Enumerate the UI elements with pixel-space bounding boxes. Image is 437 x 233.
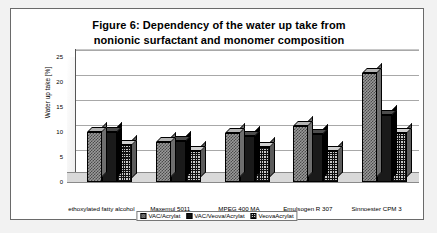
y-axis-tick-labels: 0510152025 [47,49,63,201]
figure-root: Figure 6: Dependency of the water up tak… [0,0,437,233]
chart-legend: VAC/AcrylatVAC/Veova/AcrylatVeovaAcrylat [136,211,297,221]
bar-side-face [308,116,313,177]
bar-group [225,56,270,182]
y-axis-tick-label: 15 [47,104,63,110]
bar-side-face [377,63,382,177]
bar [293,126,308,182]
legend-label: VeovaAcrylat [259,213,294,219]
legend-swatch [140,213,146,219]
y-axis-tick-label: 0 [47,179,63,185]
chart-title-line-1: Figure 6: Dependency of the water up tak… [92,19,345,31]
legend-swatch [251,213,257,219]
bar-front-face [156,142,171,182]
legend-item: VAC/Acrylat [140,213,180,219]
y-axis-tick-label: 25 [47,54,63,60]
chart-title: Figure 6: Dependency of the water up tak… [41,18,397,48]
bar [156,142,171,182]
gridline [76,50,419,51]
y-axis-tick-label: 5 [47,154,63,160]
bar-group [293,56,338,182]
plot-area [67,49,419,201]
legend-label: VAC/Acrylat [148,213,180,219]
plot-floor-front-edge [67,182,419,183]
legend-swatch [186,213,192,219]
bar-group [362,56,407,182]
bar-group [87,56,132,182]
bar [225,133,240,182]
y-axis-tick-label: 20 [47,79,63,85]
bar-front-face [293,126,308,182]
plot-wrap: Water up take [%] 0510152025 [31,49,425,201]
bar [362,73,377,182]
bar-front-face [225,133,240,182]
legend-label: VAC/Veova/Acrylat [194,213,244,219]
legend-item: VAC/Veova/Acrylat [186,213,244,219]
bar-side-face [392,105,397,178]
bar-group [156,56,201,182]
bar-front-face [87,132,102,182]
y-axis-tick-label: 10 [47,129,63,135]
chart-title-line-2: nonionic surfactant and monomer composit… [41,33,397,48]
bar [87,132,102,182]
bar-front-face [362,73,377,182]
legend-item: VeovaAcrylat [251,213,294,219]
x-axis-category-label: Sinnoester CPM 3 [334,205,419,213]
bars-layer [75,56,419,182]
figure-frame: Figure 6: Dependency of the water up tak… [10,8,424,220]
